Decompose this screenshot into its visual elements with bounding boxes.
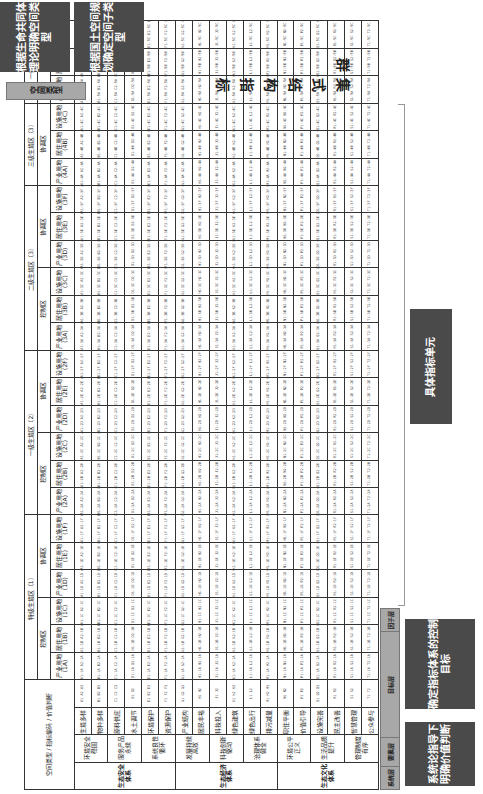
indicator-cell: C1-3B C2-3B C3-3B <box>108 295 125 322</box>
target-cell: 环境保护 (E) <box>142 707 159 734</box>
indicator-cell: H1-1B H2-1B <box>192 625 209 652</box>
indicator-cell: E1-2F E2-2F E3-2F <box>142 350 159 377</box>
indicator-cell: H1-3C H2-3C <box>192 268 209 295</box>
indicator-cell: E1-3F E2-3F E3-3F <box>142 186 159 213</box>
indicator-cell: R1-2D R2-2D <box>328 405 345 432</box>
indicator-cell: Q1-3F Q2-3F Q3-3F <box>311 186 328 213</box>
indicator-cell: H1-1C H2-1C <box>192 597 209 624</box>
indicator-cell: D1-1D D2-1D <box>125 570 142 597</box>
indicator-cell: E1-5A E2-5A E3-5A <box>142 76 159 103</box>
table-row: 科技创新驱动科技投入 (J)J1 J2J1-1A J2-1AJ1-1B J2-1… <box>209 21 226 790</box>
indicator-cell: H1-2E H2-2E <box>192 378 209 405</box>
indicator-cell: S1-3E S2-3E <box>345 213 362 240</box>
indicator-cell: D1-3E D2-3E <box>125 213 142 240</box>
indicator-cell: N1-3C N2-3C <box>277 268 294 295</box>
target-cell: 资源保护 (F) <box>159 707 176 734</box>
indicator-cell: K1-3A K2-3A K3-3A <box>226 323 243 350</box>
landuse-column-header: 产业用地(3D) <box>50 240 74 267</box>
indicator-cell: R1-4B R2-4B <box>328 131 345 158</box>
corner-header: 空间类型 / 指标编码 / 价值判断 <box>25 680 75 790</box>
indicator-cell: K1-2C K2-2C K3-2C <box>226 433 243 460</box>
indicator-cell: J1-1F J2-1F <box>209 515 226 542</box>
indicator-cell: C1-4B C2-4B C3-4B <box>108 131 125 158</box>
indicator-cell: P1-4A P2-4A <box>294 158 311 185</box>
indicator-cell: T1-4B T2-4B <box>362 131 379 158</box>
indicator-cell: K1-3C K2-3C K3-3C <box>226 268 243 295</box>
indicator-cell: Q1-4B Q2-4B Q3-4B <box>311 131 328 158</box>
indicator-cell: T1-1E T2-1E <box>362 542 379 569</box>
landuse-column-header: 产业用地(4A) <box>50 158 74 185</box>
indicator-cell: S1-2E S2-2E <box>345 378 362 405</box>
factor-cell: H1 H2 <box>192 680 209 707</box>
indicator-cell: C1-4C C2-4C C3-4C <box>108 103 125 130</box>
indicator-cell: P1-2C P2-2C <box>294 433 311 460</box>
indicator-cell: P1-3B P2-3B <box>294 295 311 322</box>
indicator-cell: B1-3D B2-3D B3-3D <box>91 240 108 267</box>
indicator-cell: N1-2A N2-2A <box>277 488 294 515</box>
indicator-cell: D1-1C D2-1C <box>125 597 142 624</box>
indicator-cell: A1-4C A2-4C A3-4C <box>74 103 91 130</box>
indicator-cell: M1-2A M2-2A M3-2A <box>260 488 277 515</box>
indicator-cell: Q1-1A Q2-1A Q3-1A <box>311 652 328 679</box>
indicator-cell: N1-4B N2-4B <box>277 131 294 158</box>
indicator-cell: L1-1C L2-1C <box>243 597 260 624</box>
table-row: 绿色建筑 (K)K1 K2 K3K1-1A K2-1A K3-1AK1-1B K… <box>226 21 243 790</box>
table-row: 资源保护 (F)F1 F2 F3F1-1A F2-1A F3-1AF1-1B F… <box>159 21 176 790</box>
factor-cell: S1 S2 <box>345 680 362 707</box>
indicator-cell: E1-4B E2-4B E3-4B <box>142 131 159 158</box>
element-cell: 科技创新驱动 <box>209 735 243 762</box>
indicator-cell: L1-4B L2-4B <box>243 131 260 158</box>
target-cell: 民主改善 (R) <box>328 707 345 734</box>
indicator-cell: D1-1B D2-1B <box>125 625 142 652</box>
indicator-cell: E1-5B E2-5B E3-5B <box>142 48 159 75</box>
indicator-cell: C1-2D C2-2D C3-2D <box>108 405 125 432</box>
indicator-cell: P1-4B P2-4B <box>294 131 311 158</box>
indicator-cell: E1-4C E2-4C E3-4C <box>142 103 159 130</box>
indicator-cell: H1-2D H2-2D <box>192 405 209 432</box>
indicator-cell: A1-4B A2-4B A3-4B <box>74 131 91 158</box>
indicator-cell: F1-4C F2-4C F3-4C <box>159 103 176 130</box>
element-cell: 环境安全稳固 <box>74 735 108 762</box>
indicator-cell: C1-3D C2-3D C3-3D <box>108 240 125 267</box>
indicator-cell: A1-2A A2-2A A3-2A <box>74 488 91 515</box>
indicator-cell: L1-3D L2-3D <box>243 240 260 267</box>
indicator-cell: K1-2B K2-2B K3-2B <box>226 460 243 487</box>
indicator-cell: J1-2D J2-2D <box>209 405 226 432</box>
indicator-cell: Q1-3C Q2-3C Q3-3C <box>311 268 328 295</box>
indicator-cell: M1-1D M2-1D M3-1D <box>260 570 277 597</box>
indicator-cell: G1-2D G2-2D G3-2D <box>176 405 193 432</box>
indicator-cell: L1-1F L2-1F <box>243 515 260 542</box>
table-row: 物种多样 (B)B1 B2 B3B1-1A B2-1A B3-1AB1-1B B… <box>91 21 108 790</box>
factor-cell: C1 C2 C3 <box>108 680 125 707</box>
indicator-cell: J1-3B J2-3B <box>209 295 226 322</box>
indicator-cell: E1-3B E2-3B E3-3B <box>142 295 159 322</box>
target-cell: 原料供应 (C) <box>108 707 125 734</box>
indicator-cell: J1-1B J2-1B <box>209 625 226 652</box>
landuse-column-header: 设施用地(1F) <box>50 515 74 542</box>
indicator-cell: G1-4B G2-4B G3-4B <box>176 131 193 158</box>
indicator-cell: K1-1B K2-1B K3-1B <box>226 625 243 652</box>
factor-cell: P1 P2 <box>294 680 311 707</box>
subzone-header: 协调区 <box>37 515 50 597</box>
indicator-cell: T1-2E T2-2E <box>362 378 379 405</box>
indicator-cell: K1-2A K2-2A K3-2A <box>226 488 243 515</box>
factor-cell: J1 J2 <box>209 680 226 707</box>
indicator-cell: B1-2F B2-2F B3-2F <box>91 350 108 377</box>
indicator-cell: M1-2F M2-2F M3-2F <box>260 350 277 377</box>
indicator-cell: G1-2A G2-2A G3-2A <box>176 488 193 515</box>
indicator-cell: P1-3E P2-3E <box>294 213 311 240</box>
indicator-cell: E1-4A E2-4A E3-4A <box>142 158 159 185</box>
indicator-cell: G1-5B G2-5B G3-5B <box>176 48 193 75</box>
indicator-cell: H1-2A H2-2A <box>192 488 209 515</box>
indicator-cell: L1-1A L2-1A <box>243 652 260 679</box>
indicator-cell: B1-1B B2-1B B3-1B <box>91 625 108 652</box>
indicator-cell: G1-3A G2-3A G3-3A <box>176 323 193 350</box>
indicator-cell: T1-2C T2-2C <box>362 433 379 460</box>
indicator-cell: J1-3C J2-3C <box>209 268 226 295</box>
landuse-column-header: 设施用地(3C) <box>50 268 74 295</box>
indicator-cell: T1-4C T2-4C <box>362 103 379 130</box>
target-cell: 智慧管理 (S) <box>345 707 362 734</box>
indicator-cell: A1-1D A2-1D A3-1D <box>74 570 91 597</box>
indicator-cell: F1-2F F2-2F F3-2F <box>159 350 176 377</box>
indicator-cell: A1-1B A2-1B A3-1B <box>74 625 91 652</box>
